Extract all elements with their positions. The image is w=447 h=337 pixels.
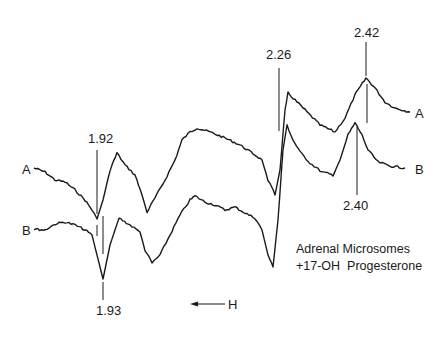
field-axis-label: H [228,298,237,311]
epr-spectrum-figure: A B A B 1.92 1.93 2.26 2.42 2.40 H Adren… [0,0,447,337]
g-value-1-93: 1.93 [96,304,121,317]
g-value-1-92: 1.92 [88,132,113,145]
spectrum-plot [0,0,447,337]
g-value-2-26: 2.26 [266,48,291,61]
caption: Adrenal Microsomes +17-OH Progesterone [296,241,422,275]
series-b-label-right: B [415,163,424,176]
series-a-label-right: A [415,107,424,120]
arrow-left-icon [190,302,198,307]
series-a-label: A [22,163,31,176]
series-b-label: B [22,224,31,237]
g-value-2-40: 2.40 [343,199,368,212]
caption-line-1: Adrenal Microsomes [296,241,422,258]
g-value-2-42: 2.42 [354,26,379,39]
caption-line-2: +17-OH Progesterone [296,258,422,275]
